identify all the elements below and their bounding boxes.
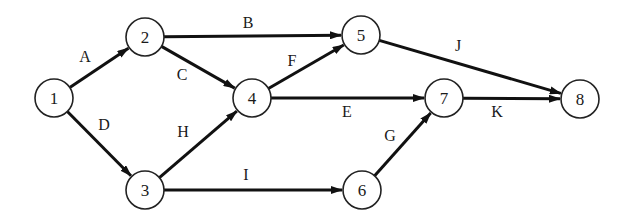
node-3: 3 [126,171,164,209]
node-label: 3 [141,181,150,200]
node-label: 5 [357,26,366,45]
edge-label-d: D [98,116,110,133]
edge-arrow-f [268,45,343,88]
edge-label-f: F [288,52,297,69]
node-label: 1 [50,89,59,108]
node-label: 7 [440,89,449,108]
node-label: 8 [576,90,585,109]
node-label: 4 [248,89,257,108]
edge-arrow-h [159,111,236,178]
node-2: 2 [126,18,164,56]
edge-label-k: K [491,103,503,120]
edge-label-j: J [455,37,461,54]
edge-arrow-k [463,98,560,99]
edge-label-e: E [342,103,352,120]
nodes-layer: 12345678 [35,16,599,209]
edge-label-a: A [79,48,91,65]
node-6: 6 [343,171,381,209]
edge-arrow-b [164,35,341,37]
node-label: 2 [141,28,150,47]
node-8: 8 [561,80,599,118]
edge-label-c: C [177,66,188,83]
edge-label-b: B [243,14,254,31]
node-4: 4 [233,79,271,117]
edge-label-i: I [243,166,248,183]
edge-arrow-g [375,113,431,176]
edge-label-h: H [177,123,189,140]
edge-arrow-c [162,46,235,88]
node-label: 6 [358,181,367,200]
node-1: 1 [35,79,73,117]
network-diagram: ABCDEFGHIJK 12345678 [0,0,630,218]
edge-label-g: G [384,127,396,144]
edge-arrow-j [379,40,561,93]
node-5: 5 [342,16,380,54]
node-7: 7 [425,79,463,117]
edges-layer [67,35,560,190]
